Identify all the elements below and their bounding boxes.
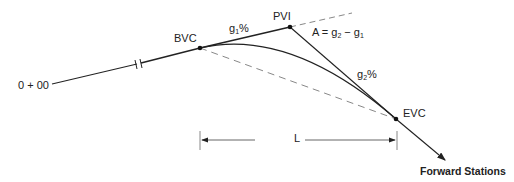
bvc-label: BVC [174,32,197,44]
g2-percent: % [367,68,377,80]
bvc-point [198,46,203,51]
forward-stations-label: Forward Stations [420,165,506,177]
g1-label: g1% [229,22,249,35]
forward-stations-arrow [396,119,445,160]
length-label: L [294,132,300,144]
vertical-curve-diagram [0,0,514,182]
evc-label: EVC [403,107,426,119]
initial-tangent-segment-2 [141,48,200,63]
g2-label: g2% [357,68,377,81]
evc-point [394,117,399,122]
algebraic-difference-label: A = g2 − g1 [312,26,364,39]
initial-tangent-segment-1 [52,64,137,84]
a-eq-mid: − g [341,26,360,38]
vertical-curve [200,44,396,119]
pvi-label: PVI [273,10,291,22]
start-station-label: 0 + 00 [18,79,49,91]
chord-dashed [200,48,396,119]
pvi-point [288,25,293,30]
back-tangent-extension [290,13,352,27]
a-eq-prefix: A = g [312,26,337,38]
a-eq-sub-1: 1 [360,32,364,39]
g1-percent: % [239,22,249,34]
